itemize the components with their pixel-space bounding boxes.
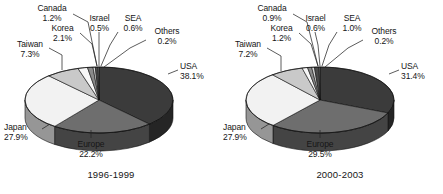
slice-label-others: Others 0.2% — [365, 27, 403, 46]
figure-root: Canada 1.2% Israel 0.5% SEA 0.6% Others … — [0, 0, 443, 194]
slice-label-usa: USA 31.4% — [401, 62, 435, 81]
slice-label-canada: Canada 1.2% — [30, 4, 74, 23]
chart-caption-1996-1999: 1996-1999 — [66, 169, 156, 180]
slice-label-europe: Europe 22.2% — [70, 140, 112, 159]
slice-label-canada: Canada 0.9% — [250, 4, 294, 23]
slice-label-israel: Israel 0.5% — [83, 14, 116, 33]
slice-label-japan: Japan 27.9% — [4, 123, 42, 142]
slice-label-israel: Israel 0.6% — [299, 14, 332, 33]
pie-chart-panel-1996-1999: Canada 1.2% Israel 0.5% SEA 0.6% Others … — [0, 0, 221, 194]
chart-caption-2000-2003: 2000-2003 — [295, 169, 385, 180]
slice-label-others: Others 0.2% — [148, 27, 186, 46]
slice-label-japan: Japan 27.9% — [223, 123, 261, 142]
slice-label-sea: SEA 0.6% — [119, 14, 147, 33]
slice-label-europe: Europe 29.5% — [299, 140, 341, 159]
slice-label-taiwan: Taiwan 7.2% — [229, 40, 267, 59]
slice-label-korea: Korea 1.2% — [264, 24, 299, 43]
slice-label-taiwan: Taiwan 7.3% — [11, 40, 49, 59]
pie-chart-panel-2000-2003: Canada 0.9% Israel 0.6% SEA 1.0% Others … — [221, 0, 442, 194]
slice-label-korea: Korea 2.1% — [45, 24, 80, 43]
slice-label-usa: USA 38.1% — [180, 62, 214, 81]
slice-label-sea: SEA 1.0% — [338, 14, 366, 33]
